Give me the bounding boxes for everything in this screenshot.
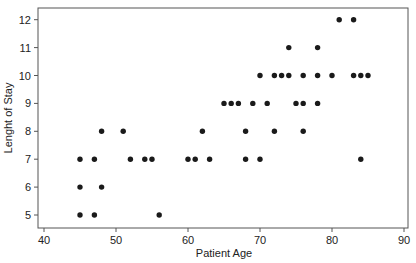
x-tick-label: 50	[110, 234, 122, 246]
data-point	[77, 184, 82, 189]
data-point	[99, 184, 104, 189]
data-point	[257, 73, 262, 78]
data-point	[243, 157, 248, 162]
data-point	[286, 45, 291, 50]
y-tick-label: 6	[25, 181, 31, 193]
data-point	[200, 129, 205, 134]
data-point	[77, 212, 82, 217]
data-point	[128, 157, 133, 162]
y-axis: 56789101112	[19, 14, 38, 221]
x-tick-label: 40	[38, 234, 50, 246]
y-tick-label: 7	[25, 153, 31, 165]
data-point	[250, 101, 255, 106]
data-point	[272, 129, 277, 134]
data-point	[229, 101, 234, 106]
data-point	[301, 101, 306, 106]
data-point	[315, 101, 320, 106]
x-axis-label: Patient Age	[196, 247, 252, 259]
data-point	[149, 157, 154, 162]
y-tick-label: 9	[25, 97, 31, 109]
y-axis-label: Lenght of Stay	[2, 82, 14, 153]
y-tick-label: 5	[25, 209, 31, 221]
data-point	[142, 157, 147, 162]
data-point	[92, 212, 97, 217]
data-point	[221, 101, 226, 106]
data-point	[337, 17, 342, 22]
data-point	[329, 73, 334, 78]
data-point	[301, 73, 306, 78]
data-point	[279, 73, 284, 78]
x-tick-label: 80	[326, 234, 338, 246]
x-axis: 405060708090	[38, 228, 410, 246]
y-tick-label: 12	[19, 14, 31, 26]
y-tick-label: 10	[19, 70, 31, 82]
data-point	[99, 129, 104, 134]
data-point	[351, 17, 356, 22]
x-tick-label: 60	[182, 234, 194, 246]
y-tick-label: 11	[20, 42, 31, 54]
data-point	[358, 157, 363, 162]
data-point	[293, 101, 298, 106]
data-point	[272, 73, 277, 78]
data-point	[77, 157, 82, 162]
data-point	[351, 73, 356, 78]
data-point	[257, 157, 262, 162]
scatter-chart: 405060708090 56789101112 Patient Age Len…	[0, 0, 416, 263]
data-point	[315, 45, 320, 50]
x-tick-label: 90	[398, 234, 410, 246]
data-point	[157, 212, 162, 217]
y-tick-label: 8	[25, 125, 31, 137]
data-point	[365, 73, 370, 78]
x-tick-label: 70	[254, 234, 266, 246]
data-point	[185, 157, 190, 162]
data-point	[193, 157, 198, 162]
data-point	[265, 101, 270, 106]
plot-frame	[38, 8, 408, 228]
data-point	[301, 129, 306, 134]
data-point	[92, 157, 97, 162]
data-point	[315, 73, 320, 78]
data-point	[207, 157, 212, 162]
data-point	[236, 101, 241, 106]
data-point	[286, 73, 291, 78]
data-point	[358, 73, 363, 78]
data-point	[243, 129, 248, 134]
data-point	[121, 129, 126, 134]
data-points	[77, 17, 370, 218]
